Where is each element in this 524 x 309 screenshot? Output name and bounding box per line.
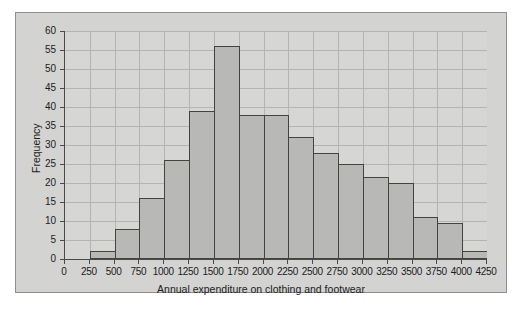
x-axis-tick bbox=[64, 260, 65, 264]
y-axis-tick-label: 10 bbox=[16, 215, 56, 226]
x-axis-tick bbox=[238, 260, 239, 264]
x-axis-tick bbox=[213, 260, 214, 264]
y-axis-tick-label: 5 bbox=[16, 234, 56, 245]
y-axis-tick bbox=[60, 164, 64, 165]
histogram-bar bbox=[164, 160, 190, 259]
x-axis-title: Annual expenditure on clothing and footw… bbox=[16, 283, 506, 295]
y-axis-tick-label: 25 bbox=[16, 158, 56, 169]
x-axis-tick bbox=[138, 260, 139, 264]
y-axis-tick bbox=[60, 88, 64, 89]
y-axis-tick-label: 15 bbox=[16, 196, 56, 207]
histogram-bar bbox=[313, 153, 339, 259]
gridline-vertical bbox=[115, 31, 116, 259]
histogram-bar bbox=[90, 251, 116, 259]
histogram-bar bbox=[413, 217, 439, 259]
histogram-bar bbox=[264, 115, 290, 259]
y-axis-tick-label: 30 bbox=[16, 139, 56, 150]
y-axis-tick bbox=[60, 202, 64, 203]
y-axis-tick bbox=[60, 50, 64, 51]
y-axis-tick-label: 60 bbox=[16, 25, 56, 36]
plot-inner bbox=[65, 31, 487, 259]
x-axis-tick bbox=[163, 260, 164, 264]
histogram-bar bbox=[214, 46, 240, 259]
x-axis-tick bbox=[461, 260, 462, 264]
gridline-horizontal bbox=[65, 69, 487, 70]
x-axis-tick bbox=[337, 260, 338, 264]
y-axis-tick bbox=[60, 183, 64, 184]
histogram-bar bbox=[338, 164, 364, 259]
histogram-bar bbox=[462, 251, 487, 259]
y-axis-tick-label: 45 bbox=[16, 82, 56, 93]
histogram-bar bbox=[388, 183, 414, 259]
histogram-bar bbox=[288, 137, 314, 259]
plot-area bbox=[64, 31, 487, 260]
histogram-bar bbox=[239, 115, 265, 259]
x-axis-tick bbox=[263, 260, 264, 264]
x-axis-tick-label: 4250 bbox=[466, 266, 506, 277]
x-axis-tick bbox=[312, 260, 313, 264]
histogram-bar bbox=[115, 229, 141, 259]
histogram-bar bbox=[363, 177, 389, 259]
gridline-horizontal bbox=[65, 107, 487, 108]
x-axis-tick bbox=[387, 260, 388, 264]
y-axis-tick-label: 20 bbox=[16, 177, 56, 188]
y-axis-tick bbox=[60, 126, 64, 127]
gridline-horizontal bbox=[65, 50, 487, 51]
histogram-bar bbox=[437, 223, 463, 259]
y-axis-tick bbox=[60, 107, 64, 108]
y-axis-tick bbox=[60, 31, 64, 32]
x-axis-tick bbox=[287, 260, 288, 264]
y-axis-tick-label: 0 bbox=[16, 253, 56, 264]
histogram-bar bbox=[139, 198, 165, 259]
y-axis-tick bbox=[60, 69, 64, 70]
x-axis-tick bbox=[188, 260, 189, 264]
x-axis-tick bbox=[412, 260, 413, 264]
gridline-horizontal bbox=[65, 88, 487, 89]
y-axis-tick-label: 40 bbox=[16, 101, 56, 112]
y-axis-tick bbox=[60, 145, 64, 146]
y-axis-tick bbox=[60, 240, 64, 241]
y-axis-tick-label: 55 bbox=[16, 44, 56, 55]
x-axis-tick bbox=[362, 260, 363, 264]
y-axis-tick-label: 35 bbox=[16, 120, 56, 131]
chart-figure: Frequency 051015202530354045505560 02505… bbox=[15, 12, 507, 293]
x-axis-tick bbox=[436, 260, 437, 264]
gridline-vertical bbox=[90, 31, 91, 259]
x-axis-tick bbox=[114, 260, 115, 264]
x-axis-tick bbox=[486, 260, 487, 264]
gridline-horizontal bbox=[65, 31, 487, 32]
y-axis-tick-label: 50 bbox=[16, 63, 56, 74]
x-axis-tick bbox=[89, 260, 90, 264]
y-axis-tick bbox=[60, 221, 64, 222]
histogram-bar bbox=[189, 111, 215, 259]
